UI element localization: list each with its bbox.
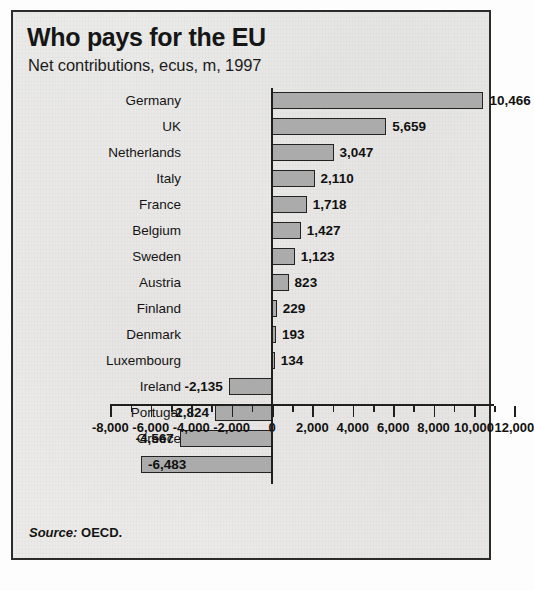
x-axis-tick-major [232,406,234,417]
chart-title: Who pays for the EU [27,23,266,52]
x-axis-tick-major [110,406,112,417]
category-label: Luxembourg [13,348,181,374]
x-axis-tick-major [514,406,516,417]
bar-value-label: 193 [282,322,305,348]
bar-value-label: -2,135 [185,374,223,400]
source-value: OECD. [81,525,122,540]
bar-row: Finland229 [13,296,493,322]
chart-subtitle: Net contributions, ecus, m, 1997 [28,56,261,75]
category-label: Finland [13,296,181,322]
bar-row: Sweden1,123 [13,244,493,270]
x-axis-tick-minor [292,406,294,412]
x-axis-tick-minor [333,406,335,412]
bar-value-label: -6,483 [148,452,186,478]
x-axis-tick-label: 4,000 [337,420,370,435]
x-axis-tick-label: 2,000 [296,420,329,435]
bar-row: Netherlands3,047 [13,140,493,166]
bar-row: Luxembourg134 [13,348,493,374]
x-axis-tick-minor [131,406,133,412]
bar-value-label: 1,718 [313,192,347,218]
x-axis-tick-label: 6,000 [377,420,410,435]
x-axis-tick-major [434,406,436,417]
bar-row: UK5,659 [13,114,493,140]
x-axis-tick-label: -4,000 [173,420,210,435]
zero-axis-line [271,88,273,484]
bar [272,248,295,265]
category-label: Sweden [13,244,181,270]
x-axis-tick-minor [494,406,496,412]
category-label: Germany [13,88,181,114]
category-label: France [13,192,181,218]
category-label: Austria [13,270,181,296]
x-axis-tick-label: 8,000 [417,420,450,435]
category-label: UK [13,114,181,140]
x-axis-tick-major [393,406,395,417]
x-axis-tick-label: 10,000 [454,420,494,435]
bar [272,196,307,213]
bar-value-label: 3,047 [340,140,374,166]
x-axis-tick-minor [373,406,375,412]
bar [272,274,289,291]
bar-row: France1,718 [13,192,493,218]
screenshot-root: Who pays for the EU Net contributions, e… [0,0,534,591]
x-axis-tick-label: -2,000 [213,420,250,435]
x-axis-tick-minor [211,406,213,412]
chart-panel: Who pays for the EU Net contributions, e… [11,10,491,560]
x-axis-tick-minor [171,406,173,412]
bar-value-label: 1,123 [301,244,335,270]
x-axis-tick-major [474,406,476,417]
category-label: Ireland [13,374,181,400]
category-label: Netherlands [13,140,181,166]
bar-row: Ireland-2,135 [13,374,493,400]
bar-value-label: 2,110 [321,166,354,192]
x-axis-tick-minor [413,406,415,412]
source-label: Source: [29,525,77,540]
x-axis-tick-major [191,406,193,417]
x-axis-tick-minor [454,406,456,412]
bar-value-label: 134 [281,348,304,374]
bar [272,170,315,187]
bar [272,144,334,161]
x-axis-tick-major [151,406,153,417]
bar-row: Germany10,466 [13,88,493,114]
bar [272,118,386,135]
bar-value-label: 823 [295,270,318,296]
x-axis-tick-major [312,406,314,417]
bar-row: Denmark193 [13,322,493,348]
x-axis-tick-label: 12,000 [495,420,534,435]
x-axis: -8,000-6,000-4,000-2,00002,0004,0006,000… [13,404,493,464]
category-label: Italy [13,166,181,192]
bar-row: Austria823 [13,270,493,296]
bar-row: Belgium1,427 [13,218,493,244]
bar-value-label: 1,427 [307,218,341,244]
bar [229,378,272,395]
x-axis-tick-minor [252,406,254,412]
category-label: Belgium [13,218,181,244]
bar-value-label: 229 [283,296,306,322]
x-axis-tick-major [353,406,355,417]
bar [272,222,301,239]
bar-value-label: 5,659 [392,114,426,140]
bar [272,92,483,109]
source-note: Source: OECD. [29,525,122,540]
x-axis-tick-label: -8,000 [92,420,129,435]
x-axis-tick-label: -6,000 [132,420,169,435]
x-axis-line [110,404,494,406]
bar-row: Italy2,110 [13,166,493,192]
category-label: Denmark [13,322,181,348]
bar-value-label: 10,466 [489,88,530,114]
